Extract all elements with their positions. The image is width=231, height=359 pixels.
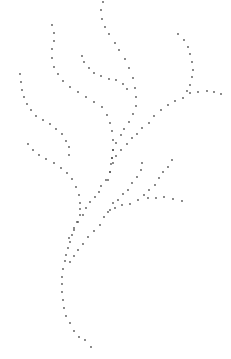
dot [68,237,70,239]
dot [189,92,191,94]
dot [101,18,103,20]
dot [32,149,34,151]
dot [78,194,80,196]
dot [79,208,81,210]
dot [98,191,100,193]
dot [20,81,22,83]
dot [73,255,75,257]
dot [73,227,75,229]
dot [158,177,160,179]
dot [55,128,57,130]
dot [213,91,215,93]
dot [49,123,51,125]
dot [122,193,124,195]
dot [220,93,222,95]
dot [83,61,85,63]
dot [93,230,95,232]
dot [183,39,185,41]
dot [189,84,191,86]
dot [160,109,162,111]
dot [102,1,104,3]
lower-right-branch-a [69,162,143,263]
dot [105,179,107,181]
dot [61,283,63,285]
dot [79,202,81,204]
dot [171,159,173,161]
dot [111,130,113,132]
dot [77,91,79,93]
dot [118,49,120,51]
dot [26,103,28,105]
right-spur [189,90,222,95]
dot [69,261,71,263]
dot [131,182,133,184]
dot [109,209,111,211]
dot [38,154,40,156]
dot [67,247,69,249]
dot [109,122,111,124]
dot [65,315,67,317]
dot [64,260,66,262]
dot [132,77,134,79]
dot [191,61,193,63]
dot [123,128,125,130]
dot [143,194,145,196]
dot [148,189,150,191]
dot [128,121,130,123]
dot [114,207,116,209]
dot [82,214,84,216]
dot [88,67,90,69]
dot [100,9,102,11]
top-branch [100,1,137,159]
inner-branch [81,55,128,90]
dot [117,199,119,201]
dot [126,88,128,90]
dot [75,186,77,188]
dot [137,199,139,201]
dot [115,142,117,144]
dot [45,158,47,160]
dot [77,249,79,251]
dot [112,202,114,204]
dot [127,189,129,191]
dot [69,86,71,88]
dot [57,73,59,75]
dot [69,322,71,324]
dot [129,203,131,205]
dot [181,200,183,202]
dot [172,198,174,200]
dot [23,96,25,98]
dot [53,66,55,68]
dot [182,97,184,99]
lower-right-branch-b [107,159,173,213]
dot [87,236,89,238]
dot [53,32,55,34]
dotted-branch-drawing [0,0,231,359]
dot [155,197,157,199]
dot [108,33,110,35]
dot [174,100,176,102]
dot [69,241,71,243]
dot [115,155,117,157]
lower-left-branch [27,143,92,348]
dot [122,83,124,85]
dot [114,42,116,44]
dot [167,166,169,168]
dot [93,101,95,103]
dot [107,179,109,181]
dot [153,115,155,117]
dot [154,184,156,186]
dot [19,73,21,75]
dot [177,33,179,35]
dot [90,346,92,348]
dot [131,137,133,139]
dot [136,133,138,135]
dot [61,133,63,135]
dot [121,204,123,206]
dot [197,91,199,93]
right-branch [112,33,194,164]
dot [61,291,63,293]
dot [107,211,109,213]
dot [141,162,143,164]
dot [62,268,64,270]
